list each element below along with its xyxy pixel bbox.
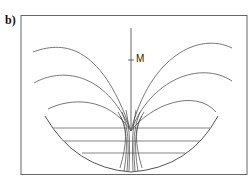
right-arc-inner: [131, 100, 216, 131]
point-m-label: M: [136, 53, 144, 64]
right-arc-middle: [131, 73, 232, 131]
left-arcs: [33, 47, 131, 131]
diagram-canvas: [0, 0, 252, 183]
horizontal-lines: [53, 128, 210, 153]
bowl-curve: [45, 116, 218, 172]
left-arc-outer: [33, 47, 131, 131]
left-arc-inner: [48, 102, 131, 131]
